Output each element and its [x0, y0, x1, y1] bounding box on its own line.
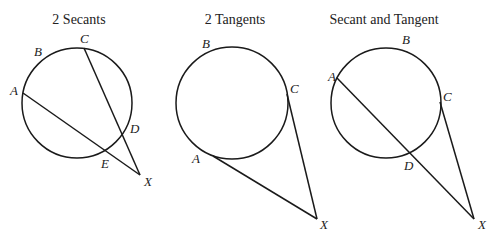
point-label-x: X: [477, 217, 487, 232]
point-label-a: A: [9, 83, 18, 98]
point-label-x: X: [319, 217, 329, 232]
point-label-d: D: [403, 158, 414, 173]
panel-title: 2 Tangents: [205, 12, 266, 27]
point-label-c: C: [443, 89, 452, 104]
point-label-b: B: [202, 36, 210, 51]
panel-title: 2 Secants: [52, 12, 105, 27]
geometry-figure: 2 Secants A B C D E X 2 Tangents A B C X…: [0, 0, 502, 240]
point-label-c: C: [80, 31, 89, 46]
panel-secant-and-tangent: Secant and Tangent A B C D X: [327, 12, 487, 232]
point-label-x: X: [143, 174, 153, 189]
tangent-line-ax: [213, 156, 317, 219]
panel-two-secants: 2 Secants A B C D E X: [9, 12, 153, 189]
point-label-c: C: [290, 81, 299, 96]
point-label-b: B: [402, 32, 410, 47]
point-label-a: A: [327, 69, 336, 84]
point-label-b: B: [34, 44, 42, 59]
point-label-e: E: [100, 156, 109, 171]
tangent-line-cx: [287, 94, 317, 219]
panel-two-tangents: 2 Tangents A B C X: [176, 12, 329, 232]
circle: [176, 47, 288, 159]
circle: [331, 48, 441, 158]
point-label-a: A: [191, 151, 200, 166]
panel-title: Secant and Tangent: [329, 12, 438, 27]
point-label-d: D: [129, 121, 140, 136]
